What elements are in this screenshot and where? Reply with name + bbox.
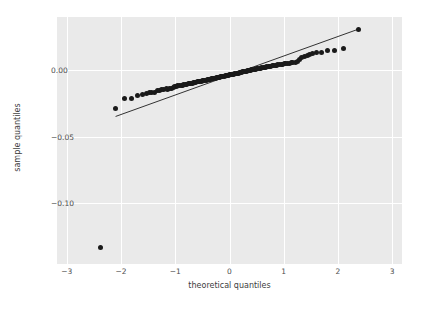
x-tick-label: 1 <box>281 267 286 276</box>
scatter-point <box>341 46 346 51</box>
x-tick-label: −3 <box>61 267 72 276</box>
scatter-point <box>325 48 330 53</box>
x-tick-label: 0 <box>227 267 232 276</box>
scatter-point <box>98 245 103 250</box>
y-tick-label: −0.05 <box>51 132 74 141</box>
x-tick-label: −2 <box>115 267 126 276</box>
x-tick-label: −1 <box>170 267 181 276</box>
scatter-point <box>332 48 337 53</box>
x-tick-label: 3 <box>390 267 395 276</box>
y-tick-label: 0.00 <box>51 66 68 75</box>
y-axis-label: sample quantiles <box>13 78 22 198</box>
x-axis-label: theoretical quantiles <box>57 281 402 290</box>
plot-panel <box>57 17 402 264</box>
y-tick-label: −0.10 <box>51 198 74 207</box>
scatter-point <box>113 106 118 111</box>
scatter-point <box>122 96 127 101</box>
scatter-point <box>319 50 324 55</box>
qq-plot-figure: −3−2−10123 0.00−0.05−0.10 theoretical qu… <box>0 0 423 311</box>
scatter-point <box>129 96 134 101</box>
scatter-points <box>57 17 402 264</box>
x-tick-label: 2 <box>336 267 341 276</box>
scatter-point <box>356 27 361 32</box>
